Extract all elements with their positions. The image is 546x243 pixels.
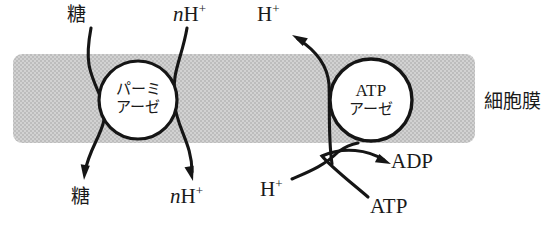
adp-label: ADP — [391, 151, 433, 172]
atpase-label-line2: アーゼ — [330, 101, 412, 119]
proton-outside-element: H — [257, 2, 272, 26]
proton-outside-label: H+ — [257, 4, 280, 25]
proton-outside-charge: + — [272, 1, 279, 16]
atp-label: ATP — [370, 196, 407, 217]
permease-label-line2: アーゼ — [99, 99, 177, 117]
protons-bottom-label: nH+ — [170, 186, 203, 207]
protons-bottom-element: H — [181, 184, 196, 208]
proton-inside-charge: + — [275, 176, 282, 191]
cell-membrane-label: 細胞膜 — [484, 92, 541, 111]
diagram-root: パーミ アーゼ ATP アーゼ 細胞膜 糖 nH+ H+ 糖 nH+ H+ AD… — [0, 0, 546, 243]
sugar-top-label: 糖 — [67, 5, 86, 24]
sugar-influx-arrow-head — [81, 164, 90, 180]
protons-top-element: H — [184, 2, 199, 26]
protons-top-charge: + — [199, 1, 206, 16]
permease-label: パーミ アーゼ — [99, 81, 177, 116]
proton-inside-label: H+ — [260, 179, 283, 200]
proton-inside-element: H — [260, 177, 275, 201]
protons-bottom-coefficient: n — [170, 184, 181, 208]
sugar-bottom-label: 糖 — [71, 187, 90, 206]
proton-influx-arrow-head — [184, 166, 193, 181]
protons-top-coefficient: n — [173, 2, 184, 26]
atpase-label: ATP アーゼ — [330, 81, 412, 119]
protons-top-label: nH+ — [173, 4, 206, 25]
atpase-label-line1: ATP — [330, 81, 412, 101]
protons-bottom-charge: + — [196, 183, 203, 198]
permease-label-line1: パーミ — [99, 81, 177, 99]
